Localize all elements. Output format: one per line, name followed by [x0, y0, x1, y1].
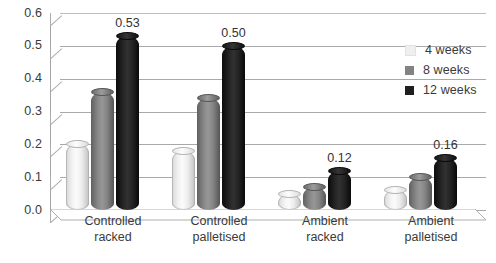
y-tick-label: 0.6 [24, 7, 42, 20]
bar-value-label: 0.50 [221, 26, 246, 40]
x-tick-line-1: Controlled [60, 214, 166, 230]
x-tick-label-ambient-palletised: Ambient palletised [378, 214, 484, 245]
x-tick-line-2: racked [60, 230, 166, 246]
legend-swatch-icon [405, 66, 414, 75]
y-tick-label: 0.5 [24, 39, 42, 52]
legend-label: 8 weeks [423, 63, 470, 77]
legend-item-4-weeks[interactable]: 4 weeks [405, 40, 495, 60]
x-tick-label-controlled-palletised: Controlled palletised [166, 214, 272, 245]
bar-value-label: 0.16 [433, 138, 458, 152]
x-tick-line-2: palletised [378, 230, 484, 246]
x-tick-label-ambient-racked: Ambient racked [272, 214, 378, 245]
legend-item-12-weeks[interactable]: 12 weeks [405, 80, 495, 100]
x-tick-line-2: palletised [166, 230, 272, 246]
x-tick-line-1: Controlled [166, 214, 272, 230]
y-tick-label: 0.3 [24, 105, 42, 118]
legend: 4 weeks 8 weeks 12 weeks [405, 40, 495, 100]
x-tick-line-2: racked [272, 230, 378, 246]
y-tick-label: 0.2 [24, 138, 42, 151]
legend-item-8-weeks[interactable]: 8 weeks [405, 60, 495, 80]
bar-group: 0.12 [272, 13, 378, 210]
y-axis: 0.6 0.5 0.4 0.3 0.2 0.1 0.0 [0, 0, 46, 263]
legend-label: 12 weeks [423, 83, 477, 97]
y-tick-label: 0.0 [24, 204, 42, 217]
bar-value-label: 0.53 [115, 16, 140, 30]
y-tick-label: 0.4 [24, 72, 42, 85]
bar-chart: 0.6 0.5 0.4 0.3 0.2 0.1 0.0 [0, 0, 496, 263]
legend-swatch-icon [405, 45, 416, 56]
x-tick-line-1: Ambient [378, 214, 484, 230]
bar-group: 0.50 [166, 13, 272, 210]
bar-value-label: 0.12 [327, 151, 352, 165]
x-tick-line-1: Ambient [272, 214, 378, 230]
bar-group: 0.53 [60, 13, 166, 210]
x-axis: Controlled racked Controlled palletised … [60, 214, 486, 263]
x-tick-label-controlled-racked: Controlled racked [60, 214, 166, 245]
y-tick-label: 0.1 [24, 171, 42, 184]
legend-swatch-icon [405, 86, 414, 95]
legend-label: 4 weeks [425, 43, 472, 57]
